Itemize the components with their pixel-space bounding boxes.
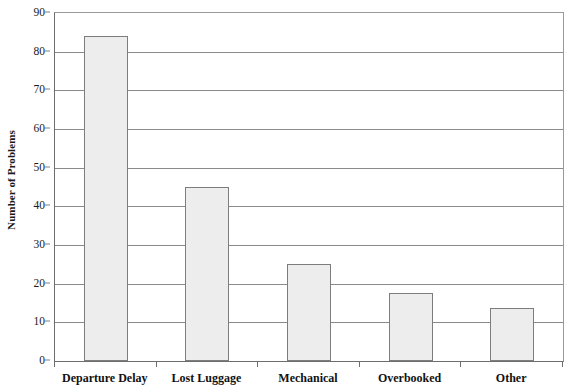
x-axis-tick-mark <box>460 361 461 367</box>
x-axis-tick-label: Departure Delay <box>62 371 147 386</box>
y-axis-tick-mark <box>45 166 50 167</box>
y-axis-tick-label: 80 <box>34 45 46 57</box>
plot-area <box>54 12 564 362</box>
y-axis-tick-label: 30 <box>34 238 46 250</box>
x-axis-tick-mark <box>156 361 157 367</box>
y-axis-tick-label: 60 <box>34 122 46 134</box>
x-axis-tick-label: Overbooked <box>378 371 441 386</box>
y-axis-tick-labels: 0102030405060708090 <box>22 0 50 390</box>
bar <box>287 264 331 361</box>
y-axis-tick-label: 70 <box>34 83 46 95</box>
x-axis-tick-mark <box>257 361 258 367</box>
y-axis-tick-mark <box>45 360 50 361</box>
y-axis-tick-label: 90 <box>34 6 46 18</box>
x-axis-tick-label: Mechanical <box>278 371 337 386</box>
y-axis-tick-mark <box>45 128 50 129</box>
x-axis-tick-mark <box>359 361 360 367</box>
bar <box>84 36 128 361</box>
x-axis-tick-mark <box>54 361 55 367</box>
y-axis-tick-mark <box>45 12 50 13</box>
x-axis-tick-labels: Departure DelayLost LuggageMechanicalOve… <box>54 371 564 389</box>
bar-chart: Number of Problems 0102030405060708090 D… <box>0 0 569 390</box>
y-axis-tick-label: 40 <box>34 199 46 211</box>
x-axis-tick-label: Other <box>496 371 527 386</box>
bar <box>490 308 534 361</box>
y-axis-tick-mark <box>45 282 50 283</box>
bar <box>185 187 229 361</box>
x-axis-tick-label: Lost Luggage <box>172 371 242 386</box>
y-axis-tick-label: 10 <box>34 315 46 327</box>
bar <box>389 293 433 361</box>
y-axis-title: Number of Problems <box>0 0 22 360</box>
y-axis-title-text: Number of Problems <box>5 130 17 230</box>
x-axis-tick-marks <box>54 361 564 369</box>
y-axis-tick-mark <box>45 50 50 51</box>
y-axis-tick-mark <box>45 244 50 245</box>
y-axis-tick-mark <box>45 205 50 206</box>
y-axis-tick-mark <box>45 321 50 322</box>
y-axis-tick-label: 50 <box>34 161 46 173</box>
y-axis-tick-mark <box>45 89 50 90</box>
x-axis-tick-mark <box>562 361 563 367</box>
y-axis-tick-label: 20 <box>34 277 46 289</box>
bars-layer <box>55 13 563 361</box>
